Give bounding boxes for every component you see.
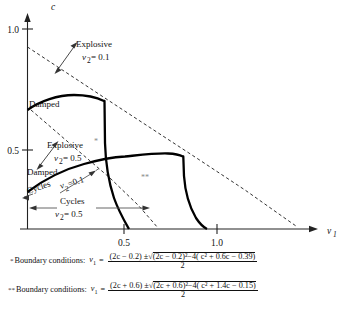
annotation-cycles-v2-0.5: Cycles v 2 = 0.5 [55, 196, 85, 222]
note-2-num-pre: (2c + 0.6) ± [110, 281, 149, 290]
pointer-upper-arrow-down [55, 68, 62, 75]
x-axis-label: v 1 [327, 226, 337, 239]
label-damped-upper: Damped [29, 99, 60, 109]
y-tick-label-0.5: 0.5 [7, 146, 19, 156]
x-axis-label-sub: 1 [333, 230, 337, 239]
y-axis-label: c [51, 2, 56, 12]
x-tick-label-0.5: 0.5 [118, 238, 130, 248]
y-axis-arrowhead [24, 13, 30, 22]
note-1-fraction: (2c − 0.2) ±√(2c − 0.2)²−4( c² + 0.6c − … [108, 252, 258, 270]
label-cycles-upper: Cycles [25, 178, 52, 196]
marker-star-one: * [94, 137, 98, 146]
arrow-cycles-0.1-tail [96, 169, 99, 171]
label-v2-lower-base: v [54, 153, 58, 163]
note-1-lhs: v1 [89, 256, 96, 266]
annotation-cycles-v2-0.1: Cycles v 2 =0.1 [25, 174, 85, 196]
boundary-note-1: * Boundary conditions: v1 = (2c − 0.2) ±… [10, 252, 257, 270]
label-v2-upper-value: = 0.1 [91, 52, 110, 62]
arrow-cycles-0.1-head [89, 171, 97, 177]
note-1-label: Boundary conditions: [15, 257, 86, 265]
note-1-num-pre: (2c − 0.2) ± [110, 252, 149, 261]
note-2-mark: ** [8, 287, 15, 294]
note-1-num-radicand: (2c − 0.2)²−4( c² + 0.6c − 0.39) [153, 252, 256, 261]
note-2-lhs-sub: 1 [94, 288, 97, 295]
marker-star-two: ** [141, 173, 149, 182]
note-2-lhs: v1 [91, 285, 98, 295]
label-v2-cycles-value: =0.1 [66, 174, 85, 189]
note-1-equals: = [99, 257, 104, 265]
label-v2-cycles05-base: v [55, 209, 59, 219]
note-2-denominator: 2 [108, 291, 258, 299]
y-tick-label-1.0: 1.0 [7, 25, 19, 35]
label-v2-upper-base: v [82, 52, 86, 62]
span-arrow-left-head [29, 205, 37, 210]
note-1-lhs-sub: 1 [93, 259, 96, 266]
span-arrow-right-head [143, 205, 151, 210]
note-1-mark: * [10, 258, 14, 265]
x-axis-label-base: v [327, 226, 332, 236]
label-damped-lower: Damped [27, 167, 58, 177]
label-v2-lower-value: = 0.5 [63, 153, 82, 163]
pointer-upper-line [56, 44, 76, 72]
boundary-note-2: ** Boundary conditions: v1 = (2c + 0.6) … [8, 281, 258, 299]
note-2-label: Boundary conditions: [16, 286, 87, 294]
label-cycles-lower: Cycles [60, 196, 85, 206]
note-1-denominator: 2 [108, 262, 258, 270]
arrow-cycles-upper-head [22, 195, 29, 200]
label-v2-cycles05-value: = 0.5 [64, 209, 83, 219]
note-2-fraction: (2c + 0.6) ±√(2c + 0.6)²−4( c² + 1.4c − … [108, 281, 258, 299]
note-2-num-radicand: (2c + 0.6)²−4( c² + 1.4c − 0.15) [153, 281, 256, 290]
note-2-equals: = [100, 286, 105, 294]
span-arrow-cycles-v2-0.5 [29, 205, 150, 210]
label-explosive-upper: Explosive [76, 39, 112, 49]
x-axis-arrowhead [309, 226, 318, 232]
x-tick-label-1.0: 1.0 [211, 238, 223, 248]
annotation-explosive-v2-0.5: Explosive v 2 = 0.5 [47, 140, 83, 166]
x-axis: 0.5 1.0 v 1 [20, 224, 337, 248]
annotation-explosive-v2-0.1: Explosive v 2 = 0.1 [76, 39, 112, 65]
pointer-upper-dashed [55, 42, 78, 74]
